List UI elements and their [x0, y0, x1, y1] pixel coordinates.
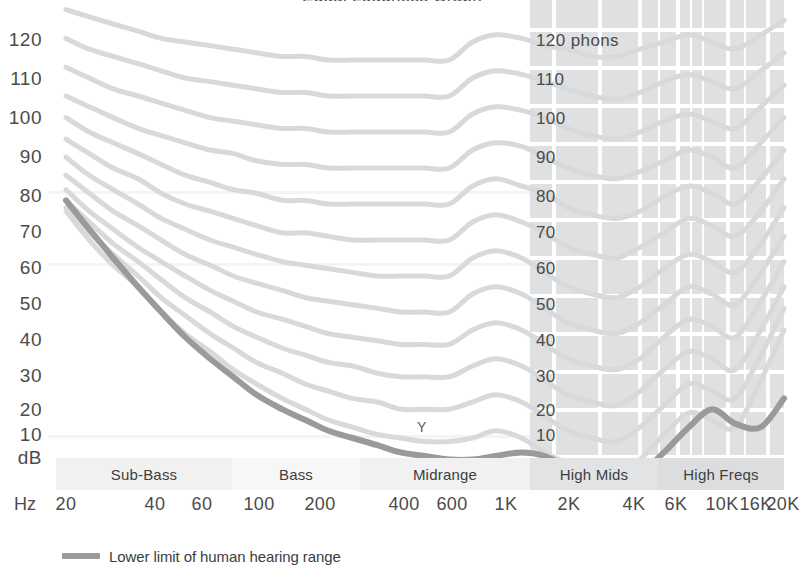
phon-contour-30	[66, 200, 784, 406]
x-tick: 600	[436, 494, 467, 514]
phon-label: 40	[536, 332, 556, 349]
plot-area	[48, 6, 784, 455]
x-tick: 1K	[495, 494, 518, 514]
legend-swatch-threshold	[62, 553, 100, 559]
band-high-mids: High Mids	[530, 458, 658, 490]
y-axis: 120 110 100 90 80 70 60 50 40 30 20 10 d…	[0, 0, 46, 460]
phon-label: 90	[536, 149, 556, 166]
phon-contour-110	[66, 38, 784, 99]
phon-label: 30	[536, 368, 556, 385]
x-tick: 2K	[558, 494, 581, 514]
y-tick: 20	[20, 400, 42, 419]
phon-label: 120 phons	[536, 32, 619, 49]
legend: Lower limit of human hearing range	[62, 545, 341, 567]
x-tick: 6K	[665, 494, 688, 514]
y-tick: 10	[20, 425, 42, 444]
threshold-curve	[66, 200, 784, 481]
x-tick: 20	[56, 494, 77, 514]
x-tick: 40	[145, 494, 166, 514]
band-label: High Mids	[560, 466, 629, 483]
phon-label: 50	[536, 296, 556, 313]
phon-label: 100	[536, 110, 566, 127]
loudness-contours	[48, 6, 784, 455]
phon-label: 60	[536, 260, 556, 277]
phon-labels: 120 phons 110 100 90 80 70 60 50 40 30 2…	[530, 0, 650, 460]
band-label: Bass	[279, 466, 313, 483]
phon-contour-120	[66, 10, 784, 62]
y-tick: 120	[9, 30, 42, 49]
y-tick: 60	[20, 258, 42, 277]
x-tick: 10K	[705, 494, 738, 514]
band-label: High Freqs	[683, 466, 758, 483]
band-midrange: Midrange	[360, 458, 530, 490]
y-tick: 110	[10, 69, 42, 88]
x-tick: 60	[192, 494, 213, 514]
x-tick: 400	[388, 494, 419, 514]
band-high-freqs: High Freqs	[658, 458, 784, 490]
phon-contour-40	[66, 190, 784, 370]
band-label: Sub-Bass	[111, 466, 178, 483]
band-bass: Bass	[232, 458, 360, 490]
x-tick: 200	[304, 494, 335, 514]
phon-contour-60	[66, 157, 784, 298]
y-tick: 50	[20, 294, 42, 313]
x-axis-unit: Hz	[14, 494, 36, 514]
legend-label: Lower limit of human hearing range	[109, 548, 341, 565]
band-label: Midrange	[413, 466, 477, 483]
band-sub-bass: Sub-Bass	[56, 458, 232, 490]
y-tick: 90	[20, 147, 42, 166]
phon-label: 80	[536, 188, 556, 205]
y-tick: 80	[20, 186, 42, 205]
x-tick: 4K	[623, 494, 646, 514]
x-tick: 20K	[766, 494, 799, 514]
phon-label: 70	[536, 224, 556, 241]
y-axis-unit: dB	[18, 448, 42, 467]
x-tick: 100	[243, 494, 274, 514]
annotation-y: Y	[417, 420, 426, 434]
frequency-band-strip: Sub-Bass Bass Midrange High Mids High Fr…	[48, 458, 784, 490]
y-tick: 100	[9, 108, 42, 127]
x-axis: Hz 20 40 60 100 200 400 600 1K 2K 4K 6K …	[0, 494, 784, 520]
phon-label: 110	[536, 71, 564, 88]
y-tick: 70	[20, 222, 42, 241]
phon-label: 20	[536, 402, 556, 419]
y-tick: 30	[20, 366, 42, 385]
phon-label: 10	[536, 427, 556, 444]
y-tick: 40	[20, 330, 42, 349]
